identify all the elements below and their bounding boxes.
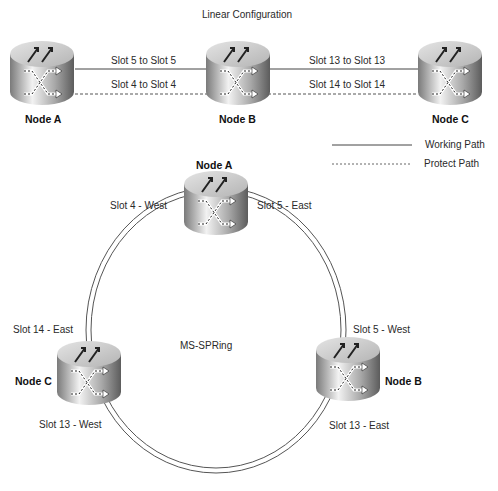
ring-node-c-east-label: Slot 14 - East — [13, 324, 73, 335]
ring-node-a-west-label: Slot 4 - West — [110, 200, 167, 211]
router-icon-ring-node-c — [57, 341, 121, 405]
router-icon-linear-node-c — [418, 41, 482, 105]
link-label-slot5: Slot 5 to Slot 5 — [111, 55, 176, 66]
diagram-lines — [0, 0, 498, 491]
ring-node-b-label: Node B — [385, 375, 422, 387]
router-icon-ring-node-b — [316, 337, 380, 401]
link-label-slot4: Slot 4 to Slot 4 — [111, 79, 176, 90]
ring-node-c-label: Node C — [15, 375, 52, 387]
ring-node-a-label: Node A — [196, 159, 232, 171]
router-icon-linear-node-a — [10, 41, 74, 105]
ring-node-a-east-label: Slot 5 - East — [257, 200, 311, 211]
linear-title: Linear Configuration — [202, 9, 292, 20]
linear-node-a-label: Node A — [25, 113, 61, 125]
link-label-slot14: Slot 14 to Slot 14 — [309, 79, 385, 90]
legend-working-label: Working Path — [425, 139, 485, 150]
link-label-slot13: Slot 13 to Slot 13 — [309, 55, 385, 66]
linear-node-b-label: Node B — [219, 113, 256, 125]
ring-title: MS-SPRing — [180, 340, 232, 351]
ring-node-b-west-label: Slot 5 - West — [353, 324, 410, 335]
ring-node-b-east-label: Slot 13 - East — [329, 420, 389, 431]
legend-protect-label: Protect Path — [424, 158, 479, 169]
router-icon-ring-node-a — [184, 171, 248, 235]
router-icon-linear-node-b — [206, 41, 270, 105]
linear-node-c-label: Node C — [432, 113, 469, 125]
ring-node-c-west-label: Slot 13 - West — [39, 419, 102, 430]
